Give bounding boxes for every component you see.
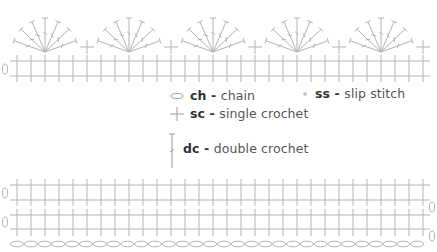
dc-stitch xyxy=(129,29,153,52)
dc-tick xyxy=(281,39,286,40)
dc-tick xyxy=(113,39,118,40)
legend-item-double-crochet: dc - double crochet xyxy=(183,141,309,156)
dc-fan xyxy=(97,18,161,52)
dc-tick xyxy=(197,39,202,40)
dc-fan xyxy=(265,18,329,52)
dc-fan xyxy=(181,18,245,52)
dc-tick xyxy=(36,35,40,36)
chain-stitch xyxy=(11,241,24,247)
dc-stitch xyxy=(273,29,297,52)
legend-label: chain xyxy=(221,88,255,103)
sc-stitch-between xyxy=(416,40,430,54)
chain-stitch xyxy=(314,241,327,247)
dc-stitch xyxy=(105,29,129,52)
legend-abbr: ss xyxy=(315,86,330,101)
legend-abbr: sc xyxy=(190,106,205,121)
turning-chain xyxy=(2,188,7,198)
chain-stitch xyxy=(397,241,410,247)
chain-stitch xyxy=(245,241,258,247)
oval-chain-icon xyxy=(171,93,183,98)
legend-sep: - xyxy=(200,141,214,156)
chain-stitch xyxy=(300,241,313,247)
chain-stitch xyxy=(383,241,396,247)
legend-item-single-crochet: sc - single crochet xyxy=(190,106,308,121)
chain-stitch xyxy=(38,241,51,247)
turning-chain xyxy=(2,64,7,74)
dc-tick xyxy=(372,35,376,36)
dc-stitch xyxy=(357,29,381,52)
chain-stitch xyxy=(80,241,93,247)
dc-tick xyxy=(204,35,208,36)
legend-item-chain: ch - chain xyxy=(190,88,255,103)
sc-stitch-between xyxy=(164,40,178,54)
dc-tick xyxy=(29,39,34,40)
dc-stitch xyxy=(45,29,69,52)
chain-stitch xyxy=(162,241,175,247)
dc-stitch xyxy=(381,29,405,52)
chain-stitch xyxy=(204,241,217,247)
chain-stitch xyxy=(52,241,65,247)
sc-stitch-between xyxy=(332,40,346,54)
chain-stitch xyxy=(121,241,134,247)
dc-fan xyxy=(13,18,77,52)
chain-stitch xyxy=(356,241,369,247)
dc-fan xyxy=(349,18,413,52)
dc-tick xyxy=(365,39,370,40)
dc-tick xyxy=(120,35,124,36)
legend-abbr: dc xyxy=(183,141,200,156)
turning-chain xyxy=(429,202,434,212)
chain-stitch xyxy=(93,241,106,247)
chain-stitch xyxy=(411,241,424,247)
chain-stitch xyxy=(287,241,300,247)
legend-label: slip stitch xyxy=(344,86,405,101)
legend-abbr: ch xyxy=(190,88,207,103)
dc-tick xyxy=(288,35,292,36)
cross-sc-icon xyxy=(170,107,184,121)
dc-stitch xyxy=(21,29,45,52)
dc-stitch xyxy=(213,29,237,52)
tall-dc-icon xyxy=(169,134,175,168)
sc-stitch-between xyxy=(248,40,262,54)
turning-chain xyxy=(429,231,434,241)
legend-sep: - xyxy=(207,88,221,103)
legend-label: single crochet xyxy=(219,106,308,121)
chain-stitch xyxy=(259,241,272,247)
chain-stitch xyxy=(149,241,162,247)
sc-stitch-between xyxy=(80,40,94,54)
chain-stitch xyxy=(24,241,37,247)
chain-stitch xyxy=(66,241,79,247)
crochet-chart xyxy=(0,0,437,252)
chain-stitch xyxy=(107,241,120,247)
dot-ss-icon xyxy=(303,92,307,96)
chain-stitch xyxy=(231,241,244,247)
chain-stitch xyxy=(190,241,203,247)
bottom-section xyxy=(2,179,434,247)
chain-stitch xyxy=(273,241,286,247)
chain-stitch xyxy=(135,241,148,247)
dc-stitch xyxy=(297,29,321,52)
legend-label: double crochet xyxy=(214,141,309,156)
legend-icons xyxy=(169,92,307,168)
chain-stitch xyxy=(176,241,189,247)
legend-sep: - xyxy=(330,86,344,101)
turning-chain xyxy=(2,217,7,227)
legend-sep: - xyxy=(205,106,219,121)
legend-item-slip-stitch: ss - slip stitch xyxy=(315,86,405,101)
chain-stitch xyxy=(218,241,231,247)
dc-stitch xyxy=(189,29,213,52)
chain-stitch xyxy=(328,241,341,247)
top-section xyxy=(2,18,430,82)
chain-stitch xyxy=(342,241,355,247)
chain-stitch xyxy=(369,241,382,247)
